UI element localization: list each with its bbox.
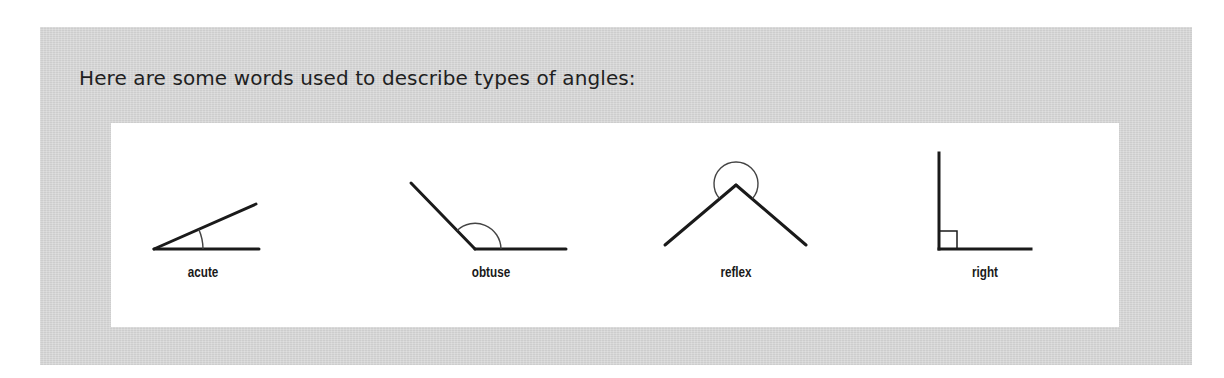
angle-types-box: Here are some words used to describe typ… xyxy=(40,27,1192,365)
intro-heading: Here are some words used to describe typ… xyxy=(79,66,636,90)
acute-label: acute xyxy=(188,263,219,280)
angles-figure xyxy=(111,123,1119,327)
angles-panel: acute obtuse reflex right xyxy=(111,123,1119,327)
reflex-label: reflex xyxy=(720,263,751,280)
reflex-angle-icon xyxy=(665,162,806,245)
right-angle-icon xyxy=(939,153,1031,249)
acute-angle-icon xyxy=(154,204,259,249)
obtuse-angle-icon xyxy=(411,183,566,249)
right-label: right xyxy=(972,263,998,280)
obtuse-label: obtuse xyxy=(472,263,510,280)
